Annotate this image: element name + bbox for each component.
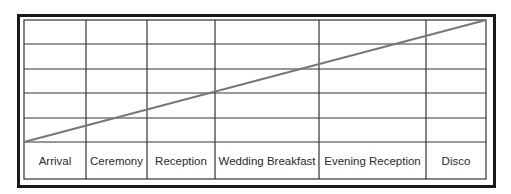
column-label-disco: Disco xyxy=(426,142,486,179)
column-label-arrival: Arrival xyxy=(24,142,86,179)
trend-line xyxy=(24,20,486,142)
column-label-ceremony: Ceremony xyxy=(86,142,147,179)
column-label-wedding-breakfast: Wedding Breakfast xyxy=(215,142,319,179)
column-label-evening-reception: Evening Reception xyxy=(319,142,426,179)
column-label-reception: Reception xyxy=(147,142,215,179)
